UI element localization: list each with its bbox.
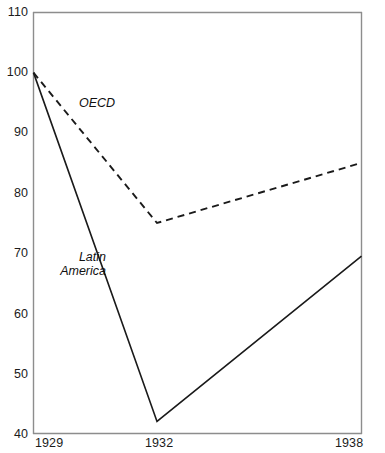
axis-frame <box>33 12 362 434</box>
series-layer <box>34 73 362 422</box>
ytick-label-80: 80 <box>0 187 28 199</box>
ytick-label-100: 100 <box>0 66 28 78</box>
series-label-oecd: OECD <box>79 96 115 110</box>
cut-off-caption <box>34 446 364 453</box>
series-line-latin-america <box>34 73 362 422</box>
ytick-label-60: 60 <box>0 308 28 320</box>
chart-plot-area <box>0 0 385 453</box>
ytick-label-40: 40 <box>0 428 28 440</box>
ytick-label-110: 110 <box>0 6 28 18</box>
series-label-latin-america: Latin America <box>44 250 106 278</box>
ytick-label-90: 90 <box>0 126 28 138</box>
ytick-label-70: 70 <box>0 247 28 259</box>
ytick-label-50: 50 <box>0 368 28 380</box>
chart-container: 110 100 90 80 70 60 50 40 1929 1932 1938… <box>0 0 385 453</box>
